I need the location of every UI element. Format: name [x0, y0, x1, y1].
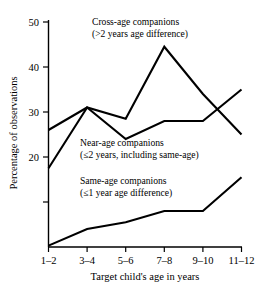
- near-age-label-line2: (≤2 years, including same-age): [80, 149, 199, 161]
- same-age-label-line1: Same-age companions: [80, 175, 167, 186]
- y-tick-label-50: 50: [29, 17, 40, 28]
- cross-age-label-line2: (>2 years age difference): [92, 28, 188, 40]
- y-tick-label-40: 40: [29, 62, 40, 73]
- x-tick-label-7-8: 7–8: [156, 255, 172, 266]
- x-tick-label-1-2: 1–2: [41, 255, 57, 266]
- near-age-label-line1: Near-age companions: [80, 137, 164, 148]
- y-tick-label-20: 20: [29, 152, 40, 163]
- y-tick-label-30: 30: [29, 107, 40, 118]
- x-tick-label-5-6: 5–6: [118, 255, 134, 266]
- chart-container: 50 40 30 20 1–2 3–4 5–6 7–8 9–10 11–12 T…: [0, 0, 262, 286]
- y-axis-title: Percentage of observations: [8, 76, 19, 189]
- x-axis-title: Target child's age in years: [91, 271, 200, 282]
- line-chart: 50 40 30 20 1–2 3–4 5–6 7–8 9–10 11–12 T…: [0, 0, 262, 286]
- x-tick-label-11-12: 11–12: [229, 255, 255, 266]
- cross-age-label-line1: Cross-age companions: [92, 16, 179, 27]
- x-tick-label-9-10: 9–10: [192, 255, 213, 266]
- x-tick-label-3-4: 3–4: [79, 255, 96, 266]
- same-age-label-line2: (≤1 year age difference): [80, 187, 172, 199]
